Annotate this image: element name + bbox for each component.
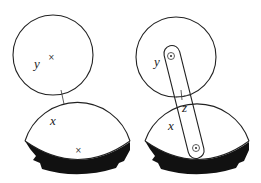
z-tick — [181, 90, 182, 100]
diagram-canvas: × × y x y x z — [0, 0, 261, 183]
center-mark-x: × — [75, 146, 82, 155]
center-mark-y: × — [48, 53, 55, 62]
contact-tick — [61, 90, 64, 104]
label-y: y — [32, 56, 40, 71]
label-y-right: y — [152, 54, 160, 69]
label-z: z — [181, 100, 187, 115]
left-figure: × × y x — [13, 15, 130, 174]
pin-top-dot — [170, 55, 172, 57]
pin-bottom-dot — [195, 147, 197, 149]
segment-x — [25, 102, 130, 141]
right-figure: y x z — [136, 17, 249, 174]
label-x-right: x — [167, 118, 174, 133]
circle-y-right — [136, 17, 216, 97]
label-x: x — [49, 113, 56, 128]
ground-right — [145, 141, 249, 174]
